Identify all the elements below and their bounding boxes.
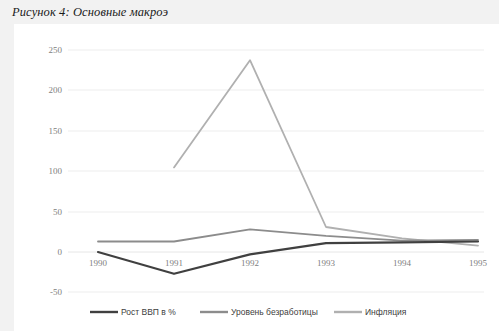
y-tick-label-0: 0 — [58, 247, 63, 257]
x-tick-label-1991: 1991 — [165, 258, 183, 268]
chart-panel: 250 200 150 100 50 0 -50 1990 1991 1992 … — [14, 24, 499, 331]
y-tick-label-neg50: -50 — [50, 287, 62, 297]
x-tick-label-1994: 1994 — [393, 258, 412, 268]
x-tick-label-1993: 1993 — [317, 258, 336, 268]
plot-background — [14, 24, 499, 331]
legend-label-unemployment[interactable]: Уровень безработицы — [231, 307, 318, 317]
figure-container: Рисунок 4: Основные макроэ 250 200 150 1… — [0, 0, 499, 331]
y-tick-label-100: 100 — [49, 166, 63, 176]
x-tick-label-1992: 1992 — [241, 258, 259, 268]
legend-label-gdp-growth[interactable]: Рост ВВП в % — [121, 307, 176, 317]
x-tick-label-1995: 1995 — [469, 258, 488, 268]
x-tick-label-1990: 1990 — [89, 258, 108, 268]
line-chart: 250 200 150 100 50 0 -50 1990 1991 1992 … — [14, 24, 499, 331]
figure-caption: Рисунок 4: Основные макроэ — [12, 5, 472, 25]
y-tick-label-150: 150 — [49, 126, 63, 136]
y-tick-label-200: 200 — [49, 85, 63, 95]
y-tick-label-250: 250 — [49, 45, 63, 55]
y-tick-label-50: 50 — [53, 207, 63, 217]
legend-label-inflation[interactable]: Инфляция — [365, 307, 407, 317]
